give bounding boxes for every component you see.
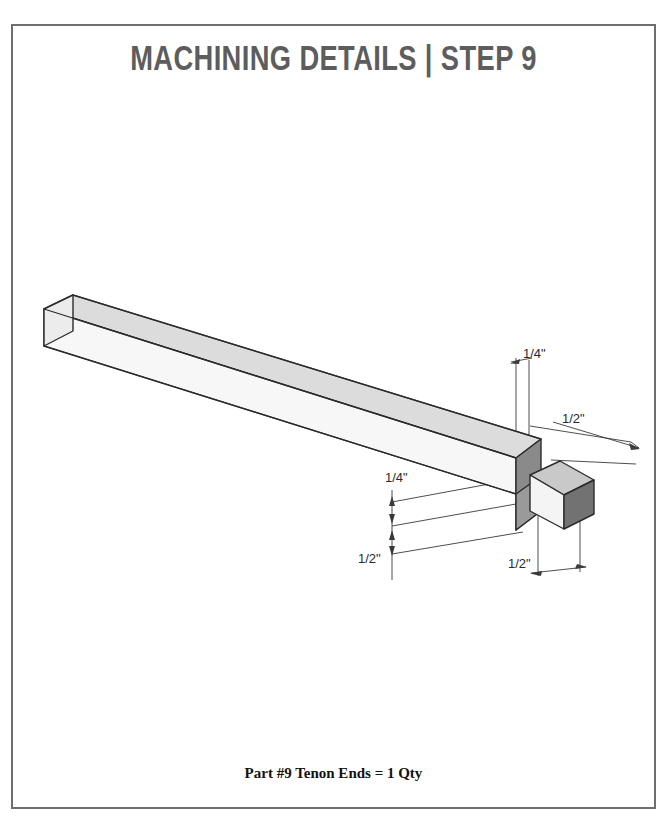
beam-top-face xyxy=(44,295,541,458)
dim-label-tenon-offset-left: 1/4" xyxy=(385,470,408,485)
ext-chain-lead-2 xyxy=(392,504,516,526)
arrowhead-bottom-left xyxy=(530,571,542,576)
beam-solid xyxy=(44,295,541,530)
dim-label-beam-height-left: 1/2" xyxy=(358,551,381,566)
technical-drawing xyxy=(11,24,656,809)
dim-label-tenon-width-top: 1/4" xyxy=(523,346,546,361)
arrowhead-chain-2b xyxy=(389,530,395,540)
ext-chain-lead-3 xyxy=(392,532,523,554)
dim-label-tenon-depth-right: 1/2" xyxy=(562,411,585,426)
arrowhead-right-half xyxy=(629,443,640,450)
arrowhead-chain-1 xyxy=(389,496,395,506)
arrowhead-bottom-right xyxy=(575,564,587,569)
tenon-block xyxy=(530,461,594,529)
beam-front-face xyxy=(44,309,516,494)
ext-line-right-upper xyxy=(530,426,631,442)
arrowhead-chain-3 xyxy=(389,546,395,556)
arrowhead-chain-2a xyxy=(389,514,395,524)
part-caption: Part #9 Tenon Ends = 1 Qty xyxy=(11,765,656,782)
page-canvas: MACHINING DETAILS | STEP 9 xyxy=(0,0,669,832)
beam-front-ridge xyxy=(44,309,516,458)
dim-label-tenon-width-bottom: 1/2" xyxy=(508,556,531,571)
